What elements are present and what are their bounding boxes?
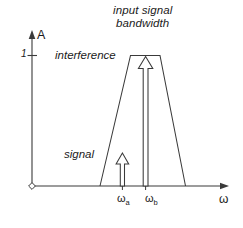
interference-annotation: interference [55,49,116,62]
y-axis-arrowhead [29,30,36,39]
chart-title-line-1: input signal [113,4,172,17]
signal-arrow [116,153,129,186]
chart-title-line-2: bandwidth [113,17,172,30]
omega-a-subscript: a [126,198,130,207]
input-signal-bandwidth-arrow [138,57,152,187]
y-axis-label: A [37,28,45,42]
omega-b-subscript: b [154,198,158,207]
y-axis-tick-label: 1 [21,48,27,60]
origin-diamond-marker [29,183,36,190]
omega-a-symbol: ω [117,192,126,204]
x-axis-label: ω [219,193,228,207]
chart-title: input signal bandwidth [113,4,172,30]
x-axis-arrowhead [220,183,229,190]
signal-annotation: signal [64,148,94,161]
omega-b-symbol: ω [145,192,154,204]
x-tick-label-omega-b: ωb [145,192,158,208]
x-tick-label-omega-a: ωa [117,192,130,208]
spectrum-diagram: input signal bandwidth interference sign… [0,0,243,228]
